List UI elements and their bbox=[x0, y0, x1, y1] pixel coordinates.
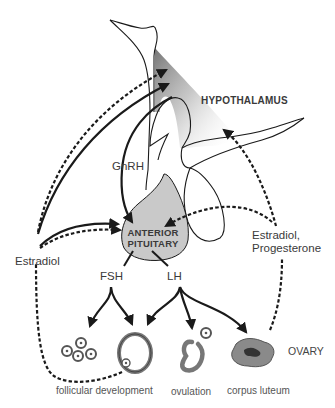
estradiol-label: Estradiol bbox=[15, 255, 60, 268]
ovulation-icon bbox=[182, 328, 211, 370]
estradiol-to-pituitary-arrows bbox=[40, 224, 120, 248]
lh-label: LH bbox=[167, 270, 182, 283]
anterior-pituitary-label: ANTERIOR PITUITARY bbox=[118, 228, 188, 250]
corpus-luteum-icon bbox=[232, 339, 274, 367]
follicular-development-label: follicular development bbox=[56, 385, 153, 397]
lh-arrows bbox=[148, 287, 246, 332]
fsh-arrows bbox=[90, 287, 132, 326]
gnrh-label: GnRH bbox=[112, 160, 144, 173]
ovary-label: OVARY bbox=[288, 345, 324, 357]
fsh-label: FSH bbox=[100, 270, 123, 283]
estradiol-progesterone-label: Estradiol, Progesterone bbox=[252, 229, 321, 255]
developing-follicle-icon bbox=[119, 334, 151, 372]
diagram-graphics bbox=[0, 0, 335, 408]
hpo-axis-diagram: HYPOTHALAMUS GnRH ANTERIOR PITUITARY FSH… bbox=[0, 0, 335, 408]
anterior-pituitary-line2: PITUITARY bbox=[118, 239, 188, 250]
estradiol-progesterone-line1: Estradiol, bbox=[252, 229, 321, 242]
hypothalamus-label: HYPOTHALAMUS bbox=[201, 95, 288, 107]
ovulation-label: ovulation bbox=[171, 386, 211, 398]
estradiol-progesterone-line2: Progesterone bbox=[252, 242, 321, 255]
primordial-follicles-icon bbox=[62, 338, 96, 361]
corpus-luteum-label: corpus luteum bbox=[227, 385, 290, 397]
